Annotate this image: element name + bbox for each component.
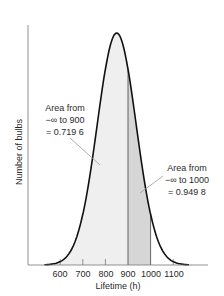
y-axis-label: Number of bulbs [14, 118, 24, 185]
x-axis-label: Lifetime (h) [95, 281, 140, 291]
tick-label-700: 700 [75, 269, 90, 279]
tick-label-1000: 1000 [141, 269, 161, 279]
tick-label-900: 900 [120, 269, 135, 279]
annotation-2: Area from −∞ to 1000 = 0.949 8 [165, 163, 209, 197]
annotation-1-line-3: = 0.719 6 [46, 127, 84, 137]
annotation-1-line-2: −∞ to 900 [45, 115, 84, 125]
annotation-1: Area from −∞ to 900 = 0.719 6 [45, 103, 85, 137]
annotation-1-line-1: Area from [45, 103, 85, 113]
area-900-to-1000 [128, 69, 151, 265]
annotation-2-line-2: −∞ to 1000 [165, 175, 209, 185]
tick-label-600: 600 [52, 269, 67, 279]
annotation-2-line-3: = 0.949 8 [168, 187, 206, 197]
chart: 600 700 800 900 1000 1100 Lifetime (h) N… [0, 0, 224, 296]
tick-label-1100: 1100 [164, 269, 183, 279]
tick-label-800: 800 [98, 269, 113, 279]
area-to-900 [44, 33, 128, 265]
annotation-2-line-1: Area from [167, 163, 207, 173]
